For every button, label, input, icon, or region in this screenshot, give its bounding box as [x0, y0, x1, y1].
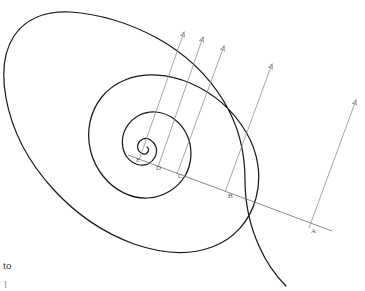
tangent-arrow-A	[309, 100, 356, 228]
point-label-e: E	[136, 157, 140, 164]
tangent-arrow-E	[139, 32, 184, 160]
spiral-diagram-canvas	[0, 0, 365, 291]
caption-line-1: to	[3, 260, 12, 271]
spiral-path	[4, 12, 286, 286]
logarithmic-spiral-curve	[4, 12, 286, 286]
tangent-arrow-group	[139, 32, 356, 228]
spiral-figure: A B C D E to l	[0, 0, 365, 291]
caption-line-2: l	[4, 279, 7, 290]
point-label-b: B	[228, 193, 233, 200]
tangent-arrow-B	[225, 64, 272, 192]
tangent-arrow-D	[158, 37, 203, 167]
point-label-d: D	[156, 165, 161, 172]
tangent-arrow-C	[177, 46, 224, 174]
point-label-c: C	[178, 173, 183, 180]
point-label-a: A	[311, 228, 316, 235]
